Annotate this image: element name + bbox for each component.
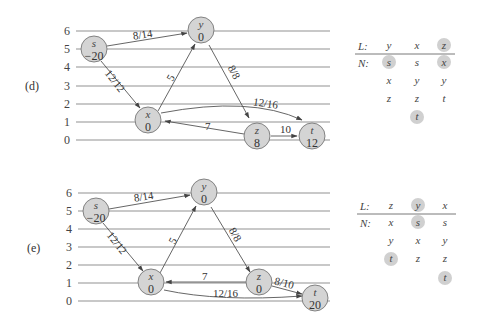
- node-s: s −20: [81, 36, 107, 63]
- svg-text:t: t: [442, 92, 446, 104]
- panel-e: (e) 0 1 2 3 4 5 6: [27, 179, 456, 312]
- svg-text:−20: −20: [87, 211, 106, 225]
- svg-text:y: y: [201, 180, 207, 192]
- svg-text:s: s: [387, 56, 391, 68]
- flow-diagram-figure: (d) 0 1 2 3 4 5 6: [0, 0, 480, 325]
- tick-2: 2: [64, 97, 70, 111]
- svg-text:y: y: [415, 199, 421, 211]
- node-x: x 0: [135, 107, 161, 134]
- edge-label-z-t: 8/10: [273, 275, 295, 291]
- list-table: L: N: y x z s x z s y z t x y t: [355, 38, 455, 124]
- tick-1: 1: [64, 115, 70, 129]
- svg-text:z: z: [388, 199, 394, 211]
- svg-text:0: 0: [145, 120, 151, 134]
- svg-text:z: z: [441, 39, 447, 51]
- svg-text:x: x: [414, 39, 420, 51]
- svg-text:x: x: [441, 56, 447, 68]
- edge-label-x-t: 12/16: [252, 95, 279, 110]
- svg-text:x: x: [148, 270, 154, 282]
- tick-4: 4: [64, 60, 70, 74]
- node-z: z 0: [246, 269, 272, 296]
- svg-text:0: 0: [148, 282, 154, 296]
- node-x: x 0: [138, 269, 164, 296]
- svg-text:12: 12: [306, 136, 318, 150]
- edge-label-z-t: 10: [280, 123, 292, 135]
- svg-text:x: x: [388, 216, 394, 228]
- svg-text:y: y: [388, 234, 394, 246]
- node-y: y 0: [188, 17, 214, 44]
- svg-text:y: y: [414, 74, 420, 86]
- svg-text:y: y: [198, 18, 204, 30]
- svg-text:s: s: [94, 199, 98, 211]
- edge-label-x-y: 5: [164, 72, 177, 83]
- tick-3: 3: [66, 240, 72, 254]
- tick-1: 1: [66, 276, 72, 290]
- svg-text:0: 0: [198, 30, 204, 44]
- node-t: t 20: [302, 285, 328, 312]
- svg-text:N:: N:: [357, 57, 369, 69]
- edge-label-s-x: 12/12: [105, 229, 130, 256]
- edge-y-z: [209, 45, 249, 118]
- node-s: s −20: [83, 198, 109, 225]
- tick-5: 5: [64, 42, 70, 56]
- panel-label: (e): [27, 241, 40, 255]
- y-axis-ticks: 0 1 2 3 4 5 6: [66, 186, 72, 308]
- edge-label-s-x: 12/12: [103, 67, 128, 94]
- svg-text:x: x: [145, 108, 151, 120]
- svg-text:N:: N:: [359, 217, 371, 229]
- tick-5: 5: [66, 204, 72, 218]
- svg-text:s: s: [443, 216, 447, 228]
- tick-0: 0: [64, 133, 70, 147]
- svg-text:−20: −20: [85, 49, 104, 63]
- svg-text:z: z: [442, 252, 448, 264]
- tick-4: 4: [66, 222, 72, 236]
- edge-label-s-y: 8/14: [132, 27, 154, 42]
- list-table: L: N: z y x x y t s x z s y z t: [357, 198, 456, 285]
- svg-text:s: s: [415, 56, 419, 68]
- svg-text:z: z: [386, 92, 392, 104]
- svg-text:x: x: [415, 234, 421, 246]
- svg-text:y: y: [441, 74, 447, 86]
- svg-text:x: x: [442, 199, 448, 211]
- panel-d: (d) 0 1 2 3 4 5 6: [25, 17, 455, 150]
- svg-text:L:: L:: [357, 40, 368, 52]
- svg-text:z: z: [415, 252, 421, 264]
- svg-text:s: s: [92, 37, 96, 49]
- edge-label-x-y: 5: [166, 235, 179, 246]
- svg-text:x: x: [386, 74, 392, 86]
- svg-text:0: 0: [256, 282, 262, 296]
- svg-text:z: z: [256, 270, 262, 282]
- svg-text:z: z: [414, 92, 420, 104]
- tick-0: 0: [66, 294, 72, 308]
- tick-6: 6: [64, 24, 70, 38]
- edge-label-x-t: 12/16: [213, 287, 239, 299]
- tick-3: 3: [64, 79, 70, 93]
- edge-label-y-z: 8/8: [226, 63, 243, 81]
- svg-text:y: y: [442, 234, 448, 246]
- edge-label-z-x: 7: [202, 270, 208, 282]
- svg-text:L:: L:: [359, 200, 370, 212]
- node-t: t 12: [299, 123, 325, 150]
- panel-label: (d): [25, 79, 39, 93]
- edge-x-t: [161, 106, 302, 120]
- tick-2: 2: [66, 258, 72, 272]
- svg-text:0: 0: [201, 192, 207, 206]
- svg-text:y: y: [386, 39, 392, 51]
- svg-text:s: s: [416, 216, 420, 228]
- edge-label-z-x: 7: [205, 120, 211, 132]
- node-z: z 8: [244, 123, 270, 150]
- node-y: y 0: [191, 179, 217, 206]
- svg-text:8: 8: [254, 136, 260, 150]
- svg-text:20: 20: [309, 298, 321, 312]
- tick-6: 6: [66, 186, 72, 200]
- edge-y-z: [211, 207, 250, 272]
- y-axis-ticks: 0 1 2 3 4 5 6: [64, 24, 70, 147]
- svg-text:z: z: [254, 124, 260, 136]
